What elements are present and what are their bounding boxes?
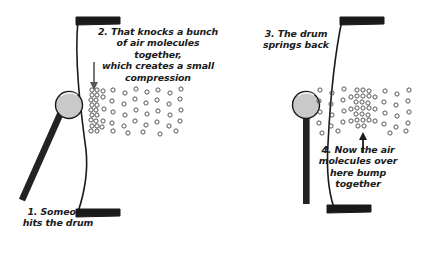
air-molecule bbox=[382, 122, 386, 126]
air-molecule bbox=[167, 102, 171, 106]
air-molecule bbox=[360, 112, 364, 116]
air-molecule bbox=[349, 95, 353, 99]
air-molecule bbox=[95, 113, 99, 117]
air-molecule bbox=[179, 108, 183, 112]
air-molecule bbox=[361, 94, 365, 98]
air-molecule bbox=[89, 118, 93, 122]
air-molecule bbox=[94, 119, 98, 123]
air-molecule bbox=[355, 118, 359, 122]
air-molecule bbox=[395, 92, 399, 96]
air-molecule bbox=[355, 88, 359, 92]
air-molecule bbox=[101, 89, 105, 93]
air-molecule bbox=[95, 88, 99, 92]
air-molecule bbox=[123, 113, 127, 117]
air-molecule bbox=[354, 112, 358, 116]
mallet-head-right bbox=[293, 92, 320, 119]
air-molecule bbox=[355, 106, 359, 110]
air-molecule bbox=[373, 107, 377, 111]
air-molecule bbox=[144, 101, 148, 105]
air-molecule bbox=[354, 100, 358, 104]
air-molecule bbox=[349, 119, 353, 123]
air-molecule bbox=[317, 121, 321, 125]
air-molecule bbox=[156, 109, 160, 113]
air-molecule bbox=[94, 98, 98, 102]
air-molecule bbox=[100, 125, 104, 129]
air-molecule bbox=[144, 123, 148, 127]
air-molecule bbox=[341, 120, 345, 124]
air-molecule bbox=[94, 108, 98, 112]
air-molecule bbox=[133, 119, 137, 123]
air-molecule bbox=[133, 97, 137, 101]
air-molecule bbox=[367, 118, 371, 122]
air-molecule bbox=[110, 99, 114, 103]
air-molecule bbox=[145, 90, 149, 94]
air-molecule bbox=[341, 98, 345, 102]
air-molecule bbox=[101, 119, 105, 123]
air-molecule bbox=[90, 88, 94, 92]
air-molecule bbox=[179, 87, 183, 91]
drum-rim-top-left bbox=[76, 17, 120, 25]
air-molecule bbox=[342, 109, 346, 113]
air-molecule bbox=[141, 130, 145, 134]
caption-step-4: 4. Now the air molecules over here bump … bbox=[312, 144, 404, 190]
air-molecule bbox=[90, 103, 94, 107]
air-molecule bbox=[356, 124, 360, 128]
drum-sound-wave-figure: 2. That knocks a bunch of air molecules … bbox=[0, 0, 421, 256]
air-molecule bbox=[89, 108, 93, 112]
air-molecule bbox=[101, 95, 105, 99]
air-molecule bbox=[95, 103, 99, 107]
air-molecule bbox=[167, 124, 171, 128]
air-molecule bbox=[111, 88, 115, 92]
air-molecule bbox=[145, 112, 149, 116]
air-molecule bbox=[155, 98, 159, 102]
air-molecule bbox=[388, 131, 392, 135]
mallet-left bbox=[22, 92, 83, 201]
air-molecule bbox=[168, 91, 172, 95]
air-molecule bbox=[366, 113, 370, 117]
air-molecule bbox=[90, 124, 94, 128]
air-molecule bbox=[174, 129, 178, 133]
air-molecule bbox=[394, 103, 398, 107]
air-molecule bbox=[406, 121, 410, 125]
air-molecule bbox=[373, 119, 377, 123]
air-molecule bbox=[320, 131, 324, 135]
air-molecule bbox=[110, 121, 114, 125]
air-molecule bbox=[89, 129, 93, 133]
air-molecule bbox=[102, 107, 106, 111]
air-molecule bbox=[361, 106, 365, 110]
caption-step-1: 1. Someone hits the drum bbox=[10, 206, 106, 229]
air-molecule bbox=[366, 101, 370, 105]
air-molecule bbox=[361, 88, 365, 92]
air-molecule bbox=[383, 111, 387, 115]
air-molecule bbox=[134, 108, 138, 112]
air-molecule bbox=[382, 100, 386, 104]
air-molecule bbox=[373, 95, 377, 99]
air-molecule bbox=[395, 114, 399, 118]
air-molecule bbox=[342, 87, 346, 91]
air-molecule bbox=[367, 106, 371, 110]
air-molecule bbox=[318, 88, 322, 92]
air-molecule bbox=[360, 100, 364, 104]
air-molecule bbox=[126, 131, 130, 135]
air-molecule bbox=[178, 97, 182, 101]
air-molecule bbox=[349, 107, 353, 111]
air-molecule bbox=[111, 129, 115, 133]
air-molecule bbox=[318, 110, 322, 114]
air-molecule bbox=[168, 113, 172, 117]
drum-membrane-left bbox=[77, 20, 87, 212]
air-molecule bbox=[155, 120, 159, 124]
air-molecule bbox=[394, 125, 398, 129]
air-molecule bbox=[407, 110, 411, 114]
air-molecule bbox=[404, 129, 408, 133]
air-molecule bbox=[406, 99, 410, 103]
caption-step-3: 3. The drum springs back bbox=[254, 28, 338, 51]
air-molecule bbox=[367, 94, 371, 98]
air-molecule bbox=[122, 124, 126, 128]
air-molecule bbox=[367, 89, 371, 93]
air-molecule bbox=[90, 113, 94, 117]
mallet-head-left bbox=[56, 92, 83, 119]
air-molecule bbox=[95, 129, 99, 133]
air-molecule bbox=[178, 119, 182, 123]
air-molecule bbox=[123, 91, 127, 95]
air-molecule bbox=[355, 94, 359, 98]
